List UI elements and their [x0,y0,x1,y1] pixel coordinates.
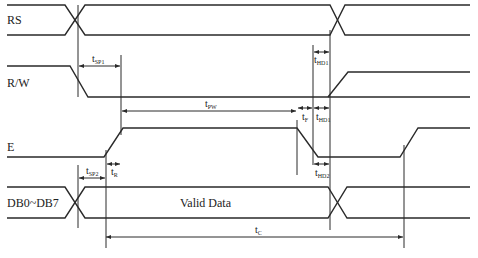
timing-label-tsp1: tSP1 [92,54,104,65]
signal-label-db: DB0~DB7 [7,197,59,209]
signal-label-rs: RS [7,14,22,26]
timing-label-thd2: tHD2 [315,168,329,179]
timing-label-tpw: tPW [205,99,217,110]
timing-label-tsp2: tSP2 [86,166,98,177]
timing-label-tf: tF [302,112,308,123]
timing-diagram: RS R/W E DB0~DB7 Valid Data tSP1 tHD1 tP… [0,0,478,258]
rw-waveform [7,66,470,97]
rs-waveform [7,5,470,35]
e-waveform [7,128,470,157]
db-waveform [7,187,470,218]
valid-data-label: Valid Data [180,197,231,209]
timing-label-thd1-mid: tHD1 [316,112,330,123]
timing-label-thd1-top: tHD1 [314,55,328,66]
timing-label-tc: tC [255,225,262,236]
timing-label-tr: tR [111,167,118,178]
signal-label-rw: R/W [7,77,30,89]
timing-waveforms [0,0,478,258]
signal-label-e: E [7,141,14,153]
